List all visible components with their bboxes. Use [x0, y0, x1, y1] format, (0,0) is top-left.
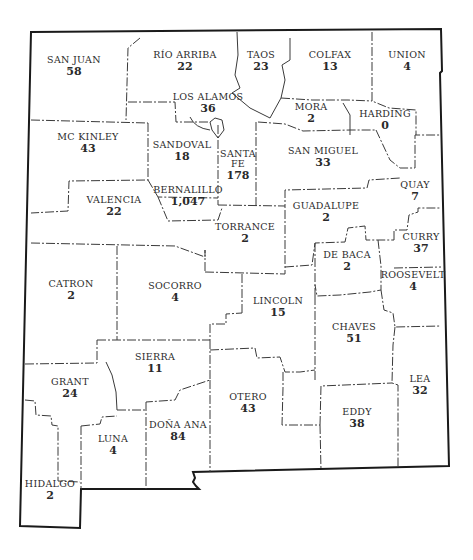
county-name: SANDOVAL	[153, 140, 212, 150]
county-value: 36	[173, 103, 244, 115]
county-label-catron: CATRON2	[49, 279, 94, 302]
county-value: 51	[332, 333, 376, 345]
county-name: DE BACA	[323, 250, 371, 260]
county-name: SAN MIGUEL	[288, 146, 358, 156]
county-name: FE	[220, 159, 256, 169]
county-name: ROOSEVELT	[381, 270, 446, 280]
county-value: 11	[135, 363, 175, 375]
county-label-san-miguel: SAN MIGUEL33	[288, 146, 358, 169]
county-value: 178	[220, 170, 256, 182]
county-value: 23	[247, 61, 275, 73]
county-label-lea: LEA32	[409, 374, 430, 397]
county-value: 58	[47, 66, 101, 78]
county-value: 13	[309, 61, 352, 73]
county-name: DOÑA ANA	[149, 420, 207, 430]
county-value: 4	[381, 281, 446, 293]
county-label-sandoval: SANDOVAL18	[153, 140, 212, 163]
county-value: 15	[253, 307, 303, 319]
county-name: SIERRA	[135, 352, 175, 362]
county-name: VALENCIA	[87, 195, 142, 205]
county-label-mc-kinley: MC KINLEY43	[57, 132, 118, 155]
county-value: 33	[288, 157, 358, 169]
county-name: COLFAX	[309, 50, 352, 60]
county-label-taos: TAOS23	[247, 50, 275, 73]
county-name: SOCORRO	[148, 281, 202, 291]
county-label-guadalupe: GUADALUPE2	[293, 201, 359, 224]
county-value: 43	[57, 143, 118, 155]
county-value: 2	[323, 261, 371, 273]
county-name: OTERO	[229, 392, 267, 402]
county-name: TORRANCE	[215, 222, 275, 232]
county-name: SAN JUAN	[47, 55, 101, 65]
county-label-de-baca: DE BACA2	[323, 250, 371, 273]
county-label-otero: OTERO43	[229, 392, 267, 415]
county-label-valencia: VALENCIA22	[87, 195, 142, 218]
county-name: CURRY	[402, 232, 439, 242]
county-label-luna: LUNA4	[98, 434, 128, 457]
county-label-grant: GRANT24	[51, 377, 89, 400]
county-value: 4	[98, 445, 128, 457]
county-value: 1,047	[153, 196, 223, 208]
county-value: 2	[293, 212, 359, 224]
county-label-roosevelt: ROOSEVELT4	[381, 270, 446, 293]
county-name: CHAVES	[332, 322, 376, 332]
county-value: 22	[87, 206, 142, 218]
county-value: 2	[25, 490, 75, 502]
county-name: LUNA	[98, 434, 128, 444]
county-name: TAOS	[247, 50, 275, 60]
county-name: EDDY	[342, 407, 372, 417]
county-name: BERNALILLO	[153, 185, 223, 195]
county-value: 84	[149, 431, 207, 443]
county-value: 18	[153, 151, 212, 163]
county-name: UNION	[388, 50, 426, 60]
county-value: 4	[148, 292, 202, 304]
county-label-eddy: EDDY38	[342, 407, 372, 430]
county-name: HIDALGO	[25, 479, 75, 489]
county-label-sierra: SIERRA11	[135, 352, 175, 375]
county-name: GUADALUPE	[293, 201, 359, 211]
county-label-harding: HARDING0	[359, 109, 411, 132]
county-name: MORA	[295, 102, 328, 112]
county-label-colfax: COLFAX13	[309, 50, 352, 73]
county-label-curry: CURRY37	[402, 232, 439, 255]
county-label-rio-arriba: RÍO ARRIBA22	[153, 50, 216, 73]
county-label-hidalgo: HIDALGO2	[25, 479, 75, 502]
county-value: 43	[229, 403, 267, 415]
county-label-lincoln: LINCOLN15	[253, 296, 303, 319]
county-name: GRANT	[51, 377, 89, 387]
county-label-santa-fe: SANTAFE178	[220, 149, 256, 181]
county-name: LEA	[409, 374, 430, 384]
county-value: 22	[153, 61, 216, 73]
county-label-quay: QUAY7	[400, 180, 429, 203]
county-value: 0	[359, 120, 411, 132]
county-name: LOS ALAMOS	[173, 92, 244, 102]
county-label-union: UNION4	[388, 50, 426, 73]
county-value: 37	[402, 243, 439, 255]
county-label-los-alamos: LOS ALAMOS36	[173, 92, 244, 115]
county-value: 32	[409, 385, 430, 397]
county-value: 2	[295, 113, 328, 125]
county-name: MC KINLEY	[57, 132, 118, 142]
county-label-chaves: CHAVES51	[332, 322, 376, 345]
county-value: 24	[51, 388, 89, 400]
county-name: CATRON	[49, 279, 94, 289]
county-value: 4	[388, 61, 426, 73]
county-name: HARDING	[359, 109, 411, 119]
county-name: RÍO ARRIBA	[153, 50, 216, 60]
county-value: 7	[400, 191, 429, 203]
county-label-mora: MORA2	[295, 102, 328, 125]
county-label-san-juan: SAN JUAN58	[47, 55, 101, 78]
county-value: 38	[342, 418, 372, 430]
county-name: QUAY	[400, 180, 429, 190]
county-label-socorro: SOCORRO4	[148, 281, 202, 304]
county-value: 2	[215, 233, 275, 245]
county-label-dona-ana: DOÑA ANA84	[149, 420, 207, 443]
county-label-bernalillo: BERNALILLO1,047	[153, 185, 223, 208]
county-value: 2	[49, 290, 94, 302]
county-label-torrance: TORRANCE2	[215, 222, 275, 245]
county-name: LINCOLN	[253, 296, 303, 306]
